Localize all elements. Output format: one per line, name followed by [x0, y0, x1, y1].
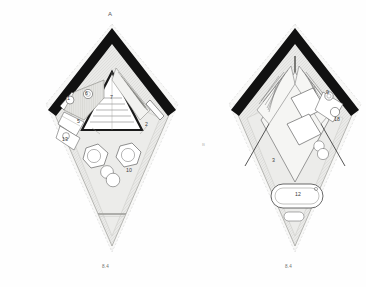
room-number-3: 3: [272, 158, 275, 163]
room-number-10: 10: [126, 168, 132, 173]
upper-floor-plan-svg: [183, 0, 366, 287]
drawing-sheet: A 1 2 5 6 7 10 13 8.4: [0, 0, 366, 287]
room-number-5: 5: [77, 119, 80, 124]
ground-floor-plan: A 1 2 5 6 7 10 13 8.4: [0, 0, 183, 287]
bath-step: [284, 212, 304, 221]
middle-marker: B: [202, 143, 205, 147]
room-number-1: 1: [67, 96, 70, 101]
room-number-7: 7: [110, 95, 113, 100]
upper-floor-plan: 3 12 18 9 8.4: [183, 0, 366, 287]
section-marker-a: A: [108, 11, 112, 17]
room-number-6: 6: [85, 91, 88, 96]
room-number-18: 18: [334, 117, 340, 122]
ground-floor-plan-svg: [0, 0, 183, 287]
room-number-13: 13: [62, 137, 68, 142]
room-number-2: 2: [145, 122, 148, 127]
room-number-9: 9: [326, 90, 329, 95]
plan-dimension-label: 8.4: [102, 265, 109, 270]
room-number-12: 12: [295, 192, 301, 197]
plan-dimension-label: 8.4: [285, 265, 292, 270]
